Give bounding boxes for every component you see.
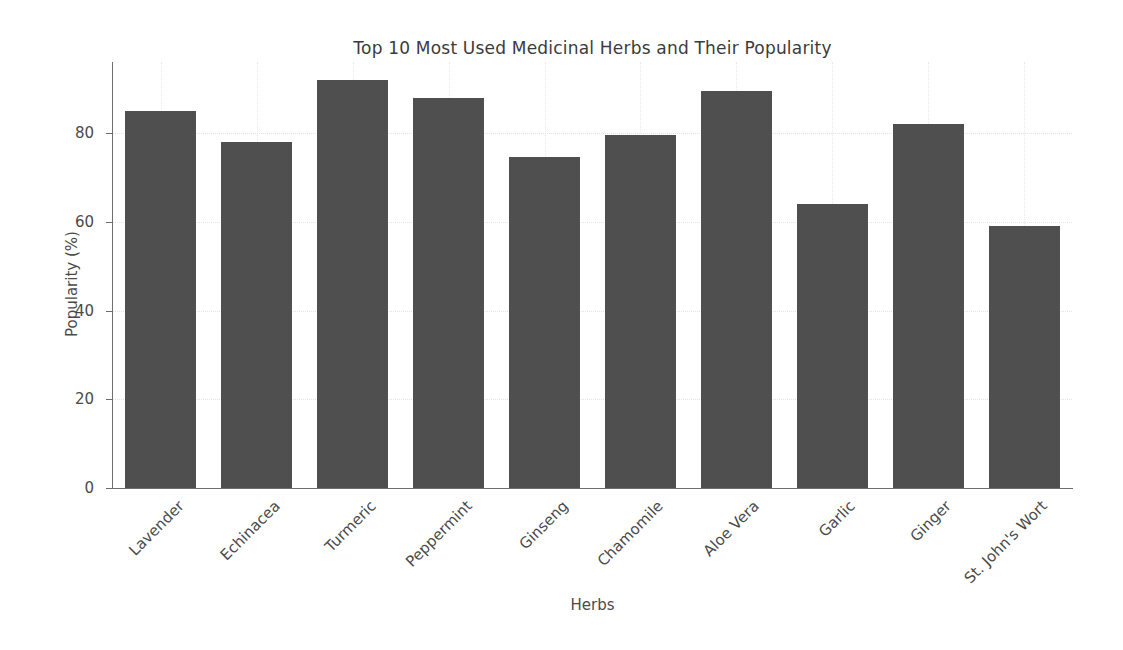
bar-garlic[interactable] — [797, 204, 868, 488]
y-tick-mark-80 — [106, 133, 113, 134]
y-axis-spine — [112, 62, 113, 489]
x-tick-label-turmeric: Turmeric — [321, 497, 379, 555]
x-tick-label-ginger: Ginger — [907, 497, 955, 545]
bar-aloe-vera[interactable] — [701, 91, 772, 488]
y-tick-mark-0 — [106, 488, 113, 489]
y-tick-mark-60 — [106, 222, 113, 223]
bar-ginseng[interactable] — [509, 157, 580, 488]
bar-peppermint[interactable] — [413, 98, 484, 489]
x-tick-label-peppermint: Peppermint — [402, 497, 476, 571]
y-tick-label-20: 20 — [34, 390, 94, 408]
x-axis-spine — [112, 488, 1073, 489]
bar-st-john-s-wort[interactable] — [989, 226, 1060, 488]
y-axis-label: Popularity (%) — [63, 204, 81, 364]
y-tick-mark-40 — [106, 311, 113, 312]
x-axis-label: Herbs — [113, 596, 1072, 614]
bar-chart-figure: Top 10 Most Used Medicinal Herbs and The… — [0, 0, 1123, 650]
bar-turmeric[interactable] — [317, 80, 388, 488]
y-tick-mark-20 — [106, 399, 113, 400]
x-tick-label-lavender: Lavender — [125, 497, 187, 559]
bar-lavender[interactable] — [125, 111, 196, 488]
x-tick-label-garlic: Garlic — [815, 497, 859, 541]
bar-chamomile[interactable] — [605, 135, 676, 488]
chart-title: Top 10 Most Used Medicinal Herbs and The… — [113, 38, 1072, 58]
plot-area — [113, 62, 1072, 488]
bar-echinacea[interactable] — [221, 142, 292, 488]
x-tick-label-aloe-vera: Aloe Vera — [700, 497, 763, 560]
x-tick-label-ginseng: Ginseng — [515, 497, 571, 553]
x-tick-label-chamomile: Chamomile — [594, 497, 667, 570]
y-tick-label-0: 0 — [34, 479, 94, 497]
bar-ginger[interactable] — [893, 124, 964, 488]
y-tick-label-80: 80 — [34, 124, 94, 142]
x-tick-label-st-john-s-wort: St. John's Wort — [961, 497, 1051, 587]
x-tick-label-echinacea: Echinacea — [217, 497, 284, 564]
